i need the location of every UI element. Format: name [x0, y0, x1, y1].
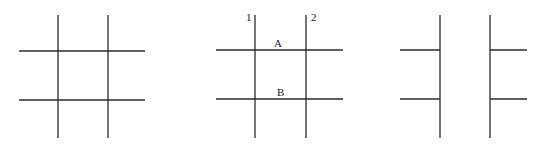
diagram-label: 1 [246, 11, 252, 23]
panel-1-grid [19, 15, 145, 138]
diagram-label: 2 [311, 11, 317, 23]
diagram-label: B [277, 86, 284, 98]
diagram-canvas: 12AB [0, 0, 538, 151]
diagram-label: A [274, 37, 282, 49]
panel-2-labeled-grid: 12AB [216, 11, 343, 138]
panel-3-split-grid [400, 15, 527, 138]
